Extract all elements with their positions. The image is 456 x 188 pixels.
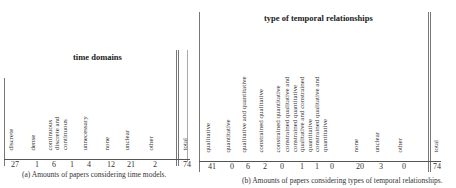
table_b-column-header: qualitative and constrainedquantitative — [299, 77, 314, 152]
table_b-column-header: none — [353, 138, 361, 152]
table-a-caption: (a) Amounts of papers considering time m… — [22, 170, 166, 179]
table-a-total-label: total — [182, 138, 190, 150]
table_b-cell-value: 0 — [397, 162, 411, 171]
table-b-total-divider-1 — [428, 12, 429, 172]
table_b-column-header: constrained quantitative — [275, 85, 283, 152]
table-b-caption: (b) Amounts of papers considering types … — [242, 176, 443, 185]
table-a-total-divider-1 — [176, 50, 177, 166]
table_a-column-header: discrete andcontinuous — [54, 116, 69, 150]
table-b-left-border — [199, 12, 200, 172]
table_a-cell-value: 1 — [30, 160, 44, 169]
table_a-column-header: unclear — [124, 129, 132, 150]
table_a-cell-value: 27 — [8, 160, 22, 169]
table_b-cell-value: 3 — [374, 162, 388, 171]
table_b-cell-value: 1 — [310, 162, 324, 171]
table_b-column-header: constrained qualitative — [258, 88, 266, 152]
table-b-title: type of temporal relationships — [264, 13, 373, 23]
table_b-column-header: quantitative — [225, 119, 233, 152]
table_b-column-header: unclear — [374, 131, 382, 152]
table-a-total-divider-2 — [178, 50, 179, 166]
table_b-cell-value: 0 — [325, 162, 339, 171]
table-b-total-label: total — [433, 140, 441, 152]
table_b-column-header: qualitative — [205, 122, 213, 152]
table_a-cell-value: 2 — [148, 160, 162, 169]
table-a-title: time domains — [73, 52, 122, 62]
table_a-cell-value: 12 — [104, 160, 118, 169]
table_b-cell-value: 0 — [225, 162, 239, 171]
table_a-cell-value: 4 — [82, 160, 96, 169]
table-b-total-value: 74 — [430, 162, 444, 171]
table-a-left-border — [4, 78, 5, 166]
table_a-column-header: dense — [30, 134, 38, 150]
table_b-column-header: constrained qualitative andquantitative — [314, 77, 329, 152]
table_a-cell-value: 21 — [124, 160, 138, 169]
table_b-column-header: qualitative and quantitative — [241, 76, 249, 152]
table_b-cell-value: 20 — [353, 162, 367, 171]
table_a-column-header: unnecessary — [82, 116, 90, 150]
table-a-total-value: 74 — [180, 160, 194, 169]
table_b-cell-value: 41 — [205, 162, 219, 171]
table_a-column-header: other — [148, 136, 156, 150]
table_a-column-header: discrete — [8, 128, 16, 150]
table_a-cell-value: 1 — [65, 160, 79, 169]
table_a-cell-value: 6 — [47, 160, 61, 169]
table_b-cell-value: 2 — [258, 162, 272, 171]
table_a-column-header: none — [104, 136, 112, 150]
table_b-column-header: constrained qualitative andconstrained q… — [284, 77, 299, 152]
table_b-cell-value: 6 — [241, 162, 255, 171]
table_b-column-header: other — [397, 138, 405, 152]
table_b-cell-value: 0 — [275, 162, 289, 171]
table_b-cell-value: 1 — [295, 162, 309, 171]
